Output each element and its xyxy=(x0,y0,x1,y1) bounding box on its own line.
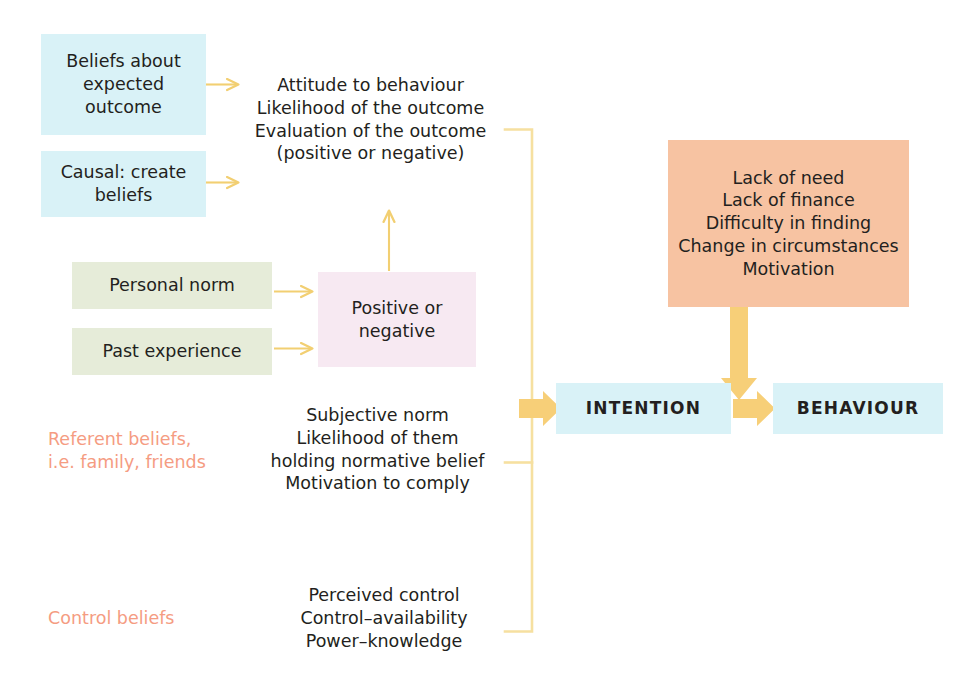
arrow-intention-to-behaviour xyxy=(733,391,775,426)
arrow-bracket-to-intention xyxy=(519,391,561,426)
label-control-beliefs: Control beliefs xyxy=(48,607,258,630)
box-positive-or-negative: Positive or negative xyxy=(318,272,476,367)
diagram-canvas: Beliefs about expected outcome Causal: c… xyxy=(0,0,974,699)
box-behaviour: BEHAVIOUR xyxy=(773,383,943,434)
box-personal-norm: Personal norm xyxy=(72,262,272,309)
label-subjective-norm-block: Subjective norm Likelihood of them holdi… xyxy=(255,404,500,495)
box-barriers: Lack of need Lack of finance Difficulty … xyxy=(668,140,909,307)
box-causal-create-beliefs: Causal: create beliefs xyxy=(41,151,206,217)
label-attitude-to-behaviour-block: Attitude to behaviour Likelihood of the … xyxy=(243,74,498,165)
bracket-determinants xyxy=(505,130,532,632)
box-beliefs-about-expected-outcome: Beliefs about expected outcome xyxy=(41,34,206,135)
box-past-experience: Past experience xyxy=(72,328,272,375)
label-control-block: Perceived control Control–availability P… xyxy=(268,584,500,652)
box-intention: INTENTION xyxy=(556,383,731,434)
label-referent-beliefs: Referent beliefs, i.e. family, friends xyxy=(48,428,258,474)
